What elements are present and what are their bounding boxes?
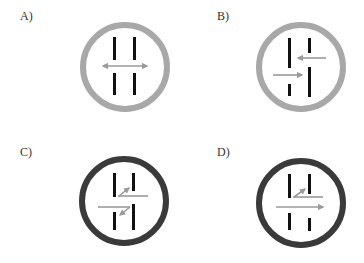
bar-top-left <box>113 173 116 197</box>
bar-top-left <box>113 37 116 60</box>
diagram-canvas <box>0 0 364 263</box>
panel-c <box>82 159 166 243</box>
bar-bottom-right <box>132 204 135 230</box>
bar-top-left <box>288 174 291 198</box>
panel-d <box>259 161 343 245</box>
ring-light <box>259 25 343 109</box>
bar-bottom-left <box>113 73 116 95</box>
panel-b <box>259 25 343 109</box>
bar-bottom-left <box>288 84 291 96</box>
bar-top-right <box>308 174 311 194</box>
bar-bottom-right <box>308 218 311 231</box>
bar-top-right <box>132 173 135 191</box>
diagonal-arrow-up-right-icon <box>119 188 129 196</box>
bar-bottom-right <box>308 67 311 97</box>
bar-bottom-right <box>133 73 136 95</box>
bar-bottom-left <box>113 212 116 230</box>
ring-light <box>83 25 167 109</box>
ring-dark <box>259 161 343 245</box>
bar-top-right <box>133 37 136 60</box>
diagonal-arrow-down-left-icon <box>120 207 130 215</box>
ring-dark <box>82 159 166 243</box>
diagonal-arrow-up-right-icon <box>294 189 305 197</box>
bar-top-left <box>288 38 291 68</box>
panel-a <box>83 25 167 109</box>
bar-bottom-left <box>288 213 291 230</box>
bar-top-right <box>308 38 311 53</box>
